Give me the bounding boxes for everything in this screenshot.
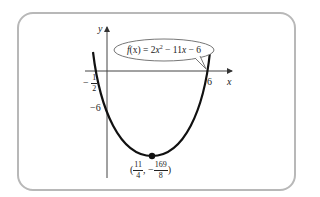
vertex-x-fraction: 114 — [133, 161, 143, 180]
x-axis-label: x — [227, 77, 231, 87]
root-left-label: − 1 2 — [83, 74, 97, 93]
vertex-point — [149, 153, 155, 159]
y-axis-label: y — [98, 24, 102, 34]
eq-arg: (x) — [130, 45, 141, 55]
eq-tail: − 6 — [186, 45, 201, 55]
vertex-y-denominator: 8 — [159, 171, 163, 180]
fraction-numerator: 1 — [91, 74, 97, 84]
eq-equals: = 2 — [141, 45, 156, 55]
function-equation: f(x) = 2x2 − 11x − 6 — [121, 44, 207, 55]
root-right-label: 6 — [207, 77, 212, 87]
callout-pointer — [195, 56, 206, 69]
fraction-one-half: 1 2 — [91, 74, 97, 93]
eq-mid: − 11 — [163, 45, 182, 55]
y-intercept-label: −6 — [90, 103, 101, 113]
vertex-y-fraction: 1698 — [154, 161, 168, 180]
vertex-x-denominator: 4 — [136, 171, 140, 180]
vertex-y-numerator: 169 — [154, 161, 168, 171]
parabola-curve — [93, 52, 210, 156]
minus-sign: − — [83, 77, 89, 88]
vertex-x-numerator: 11 — [133, 161, 143, 171]
vertex-label: (114, −1698) — [130, 161, 171, 180]
fraction-denominator: 2 — [92, 84, 96, 93]
paren-close: ) — [168, 164, 171, 175]
vertex-comma: , − — [143, 164, 154, 175]
